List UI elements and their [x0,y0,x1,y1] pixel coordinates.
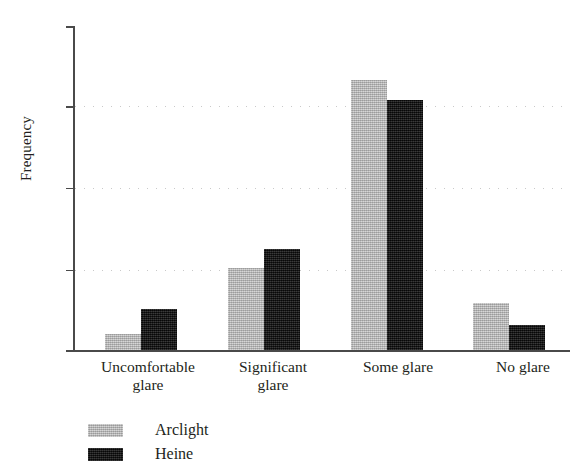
bar-heine-significant-glare [264,249,300,350]
bar-heine-uncomfortable-glare [141,309,177,350]
legend-swatch-arclight [88,424,123,437]
x-axis-line [73,350,570,352]
bar-heine-no-glare [509,325,545,350]
x-tick-label-line1: No glare [496,358,550,375]
x-tick-label-line1: Uncomfortable [101,358,195,375]
bar-arclight-some-glare [351,80,387,350]
bar-chart-figure: Frequency 0 20 40 60 80 Uncomfortable gl… [0,0,575,467]
legend-swatch-heine [88,448,123,461]
x-tick-label-line1: Significant [239,358,307,375]
legend-item-heine: Heine [88,442,208,466]
y-tick-mark-0 [66,350,74,352]
bar-arclight-significant-glare [228,268,264,351]
legend-item-arclight: Arclight [88,418,208,442]
y-axis-title: Frequency [18,79,35,219]
bar-arclight-uncomfortable-glare [105,334,141,351]
legend-label-arclight: Arclight [155,421,208,439]
bar-heine-some-glare [387,100,423,350]
x-tick-label-no-glare: No glare [443,358,575,376]
bar-arclight-no-glare [473,303,509,350]
legend-label-heine: Heine [155,445,193,463]
plot-area: 0 20 40 60 80 Uncomfortable glare Signif… [73,20,570,350]
chart-legend: Arclight Heine [88,418,208,466]
x-tick-label-line1: Some glare [363,358,433,375]
x-tick-label-line2: glare [193,376,353,394]
bars-layer [73,20,570,350]
